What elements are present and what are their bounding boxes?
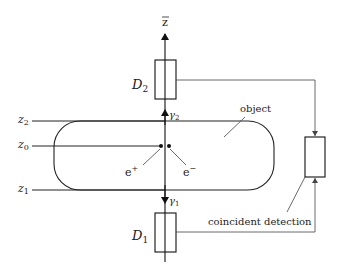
positron-label: e+ xyxy=(125,164,138,179)
electron-label: e− xyxy=(183,164,196,179)
object-label: object xyxy=(240,103,271,114)
positron-dot xyxy=(159,144,163,148)
electron-leader xyxy=(170,149,186,165)
detector-d1-label: D1 xyxy=(131,228,148,245)
z-axis-label: z xyxy=(162,16,168,29)
coincidence-leader xyxy=(287,177,305,212)
coincidence-unit xyxy=(305,137,325,177)
plane-z2-label: z2 xyxy=(17,113,29,127)
plane-z0-label: z0 xyxy=(17,138,29,152)
detector-d2-label: D2 xyxy=(131,77,148,94)
gamma1-label: γ1 xyxy=(169,195,179,208)
positron-leader xyxy=(143,149,160,165)
plane-z1-label: z1 xyxy=(17,182,29,196)
pet-coincidence-diagram: z D2 D1 γ2 γ1 z2 z0 z1 e+ e− object coin… xyxy=(0,0,343,271)
object-leader xyxy=(224,117,245,137)
object-shape xyxy=(54,121,274,190)
gamma2-label: γ2 xyxy=(169,109,179,122)
electron-dot xyxy=(167,144,171,148)
coincidence-label: coincident detection xyxy=(208,216,312,227)
